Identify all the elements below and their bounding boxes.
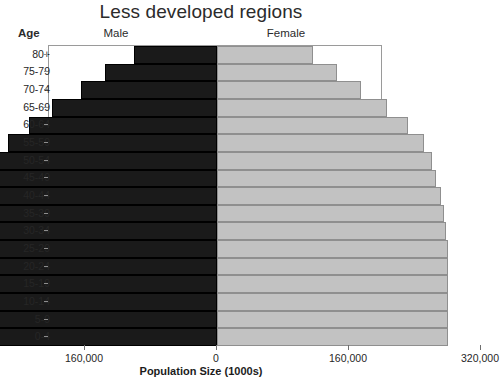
- pyramid-row: [49, 46, 381, 64]
- pyramid-row: [49, 152, 381, 170]
- pyramid-row: [49, 99, 381, 117]
- y-axis-tick: [44, 248, 48, 249]
- y-axis-tick: [44, 124, 48, 125]
- y-axis-tick: [44, 213, 48, 214]
- pyramid-row: [49, 240, 381, 258]
- pyramid-row: [49, 293, 381, 311]
- y-axis-tick: [44, 283, 48, 284]
- y-axis-tick: [44, 89, 48, 90]
- bar-female-0-4: [217, 328, 448, 346]
- x-axis-label-3: 160,000: [313, 352, 383, 364]
- pyramid-row: [49, 205, 381, 223]
- y-axis-tick: [44, 230, 48, 231]
- y-axis-tick: [44, 266, 48, 267]
- y-axis-tick: [44, 71, 48, 72]
- y-axis-tick: [44, 336, 48, 337]
- bar-female-45-49: [217, 170, 436, 188]
- bar-female-50-54: [217, 152, 432, 170]
- pyramid-row: [49, 258, 381, 276]
- pyramid-row: [49, 222, 381, 240]
- y-axis-tick: [44, 54, 48, 55]
- bar-female-65-69: [217, 99, 387, 117]
- x-axis-tick: [216, 345, 217, 350]
- pyramid-row: [49, 275, 381, 293]
- y-axis-tick: [44, 319, 48, 320]
- x-axis-label-2: 0: [181, 352, 251, 364]
- bar-female-5-9: [217, 311, 448, 329]
- x-axis-label-1: 160,000: [49, 352, 119, 364]
- x-axis-tick: [480, 345, 481, 350]
- x-axis-tick: [348, 345, 349, 350]
- pyramid-row: [49, 134, 381, 152]
- bar-female-75-79: [217, 64, 337, 82]
- pyramid-row: [49, 117, 381, 135]
- y-axis-tick: [44, 142, 48, 143]
- y-axis-tick: [44, 195, 48, 196]
- bar-female-30-34: [217, 222, 446, 240]
- pyramid-row: [49, 328, 381, 346]
- legend-label-male: Male: [70, 27, 162, 39]
- pyramid-row: [49, 170, 381, 188]
- bar-female-60-64: [217, 117, 408, 135]
- bar-female-40-44: [217, 187, 441, 205]
- bar-female-70-74: [217, 81, 361, 99]
- chart-title: Less developed regions: [0, 1, 402, 23]
- age-column-header: Age: [18, 27, 40, 39]
- plot-area: [48, 45, 382, 345]
- bar-female-15-19: [217, 275, 448, 293]
- x-axis-title: Population Size (1000s): [0, 365, 402, 377]
- pyramid-row: [49, 311, 381, 329]
- bar-female-35-39: [217, 205, 444, 223]
- pyramid-row: [49, 187, 381, 205]
- bar-male-70-74: [81, 81, 217, 99]
- bars-container: [49, 46, 381, 344]
- y-axis-tick: [44, 160, 48, 161]
- y-axis-tick: [44, 301, 48, 302]
- x-axis-tick: [84, 345, 85, 350]
- bar-male-65-69: [52, 99, 217, 117]
- x-axis-label-4: 320,000: [445, 352, 504, 364]
- bar-female-55-59: [217, 134, 424, 152]
- bar-male-80+: [134, 46, 217, 64]
- pyramid-row: [49, 64, 381, 82]
- y-axis-tick: [44, 177, 48, 178]
- pyramid-row: [49, 81, 381, 99]
- bar-female-20-24: [217, 258, 448, 276]
- bar-female-10-14: [217, 293, 448, 311]
- bar-male-75-79: [105, 64, 217, 82]
- bar-male-60-64: [29, 117, 217, 135]
- legend-label-female: Female: [240, 27, 332, 39]
- bar-female-80+: [217, 46, 313, 64]
- bar-female-25-29: [217, 240, 448, 258]
- y-axis-tick: [44, 107, 48, 108]
